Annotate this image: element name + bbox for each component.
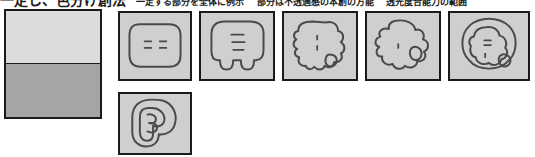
caption-strip: 一定し、色分け創法 一定する部分を全体に例示 部分は不透過感の本創の方能 透光度… <box>0 0 535 9</box>
sketch-panel-wide-blob-three-lines <box>199 11 275 81</box>
rounded-square-face-icon <box>120 13 190 79</box>
cloud-blob-single-tick-icon <box>367 13 439 79</box>
swatch-upper-half <box>6 11 100 64</box>
blob-with-three-glyph-icon <box>120 94 190 153</box>
hooded-face-blob-icon <box>450 13 528 79</box>
wide-blob-three-lines-icon <box>201 13 273 79</box>
caption-segment-2: 部分は不透過感の本創の方能 <box>257 0 374 7</box>
sketch-panel-wavy-blob-two-dots <box>282 11 358 81</box>
sketch-panel-cloud-blob-single-tick <box>365 11 441 81</box>
value-swatch-panel <box>4 9 102 119</box>
caption-segment-3: 透光度合能力の範囲 <box>386 0 467 7</box>
caption-segment-1: 一定する部分を全体に例示 <box>136 0 244 7</box>
page-root: 一定し、色分け創法 一定する部分を全体に例示 部分は不透過感の本創の方能 透光度… <box>0 0 535 157</box>
caption-heading: 一定し、色分け創法 <box>0 0 126 8</box>
sketch-panel-blob-with-three-glyph <box>118 92 192 155</box>
swatch-lower-half <box>6 64 100 117</box>
sketch-panel-hooded-face-blob <box>448 11 530 81</box>
sketch-panel-rounded-square-face <box>118 11 192 81</box>
caption-text-clip: 一定し、色分け創法 一定する部分を全体に例示 部分は不透過感の本創の方能 透光度… <box>0 0 535 9</box>
wavy-blob-two-dots-icon <box>284 13 356 79</box>
caption-body: 一定する部分を全体に例示 部分は不透過感の本創の方能 透光度合能力の範囲 <box>136 0 475 7</box>
